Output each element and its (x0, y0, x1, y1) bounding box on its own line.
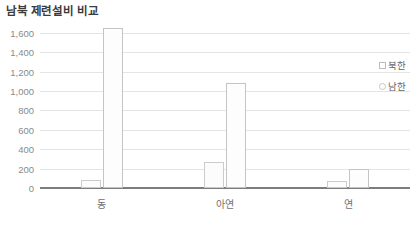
x-axis-category-label: 동 (97, 196, 106, 211)
plot-area (40, 23, 410, 188)
y-axis-tick-label: 1,200 (0, 66, 34, 77)
chart-container: 남북 제련설비 비교 02004006008001,0001,2001,4001… (0, 0, 414, 231)
y-axis-tick-label: 1,400 (0, 47, 34, 58)
y-axis-tick-label: 200 (0, 163, 34, 174)
chart-legend: 북한남한 (379, 58, 406, 93)
square-outline-icon (379, 62, 386, 69)
bar-남한-동 (103, 28, 123, 188)
legend-label: 북한 (388, 58, 406, 72)
gridline (40, 110, 410, 111)
gridline (40, 130, 410, 131)
gridline (40, 149, 410, 150)
gridline (40, 91, 410, 92)
gridline (40, 52, 410, 53)
y-axis-tick-label: 1,600 (0, 27, 34, 38)
x-axis-category-label: 아연 (216, 196, 234, 211)
bar-북한-연 (327, 181, 347, 188)
bar-남한-아연 (226, 83, 246, 188)
y-axis-tick-label: 400 (0, 144, 34, 155)
x-axis-category-label: 연 (344, 196, 353, 211)
bar-북한-동 (81, 180, 101, 188)
bar-남한-연 (349, 169, 369, 188)
y-axis-tick-label: 600 (0, 124, 34, 135)
y-axis-tick-label: 800 (0, 105, 34, 116)
legend-label: 남한 (388, 79, 406, 93)
gridline (40, 33, 410, 34)
bar-북한-아연 (204, 162, 224, 188)
chart-title: 남북 제련설비 비교 (6, 2, 98, 18)
gridline (40, 72, 410, 73)
y-axis-tick-label: 0 (0, 183, 34, 194)
legend-item-북한[interactable]: 북한 (379, 58, 406, 72)
legend-item-남한[interactable]: 남한 (379, 79, 406, 93)
y-axis-tick-label: 1,000 (0, 85, 34, 96)
circle-outline-icon (379, 83, 386, 90)
